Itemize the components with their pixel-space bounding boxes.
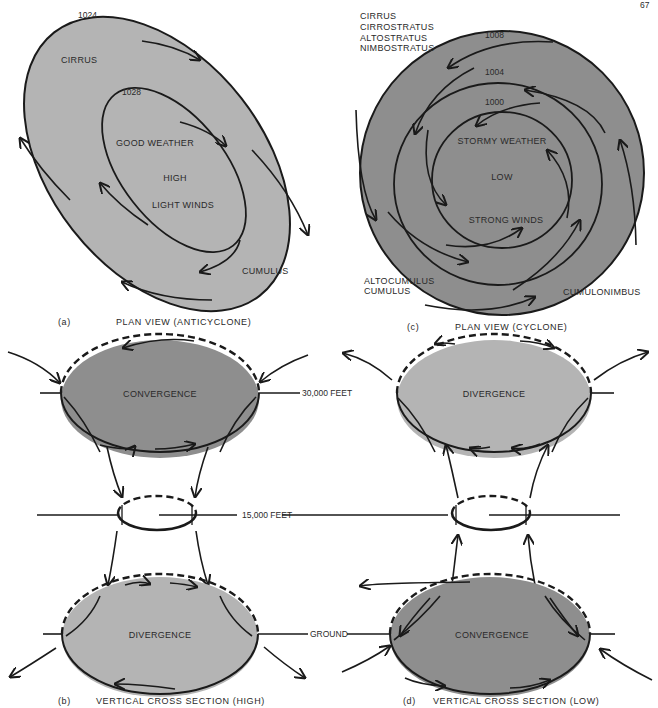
cloud-label-nimbostratus: NIMBOSTRATUS — [360, 43, 434, 53]
panel-d-letter: (d) — [403, 696, 416, 706]
panel-b-high-cross-section: CONVERGENCE DIVERGENCE (b) VERTICAL CROS… — [8, 334, 308, 706]
isobar-label-1028: 1028 — [122, 87, 141, 97]
cloud-label-altostratus: ALTOSTRATUS — [360, 33, 427, 43]
panel-b-letter: (b) — [58, 696, 71, 706]
cloud-label-cumulus: CUMULUS — [242, 266, 289, 276]
wind-arrow — [264, 647, 305, 678]
wind-arrow — [107, 447, 122, 497]
wind-arrow — [594, 352, 648, 380]
wind-arrow — [343, 353, 392, 380]
cloud-label-cumulus: CUMULUS — [364, 286, 411, 296]
cloud-label-cumulonimbus: CUMULONIMBUS — [563, 287, 641, 297]
wind-arrow — [260, 355, 308, 382]
ground-label: GROUND — [310, 629, 348, 639]
cloud-label-cirrus: CIRRUS — [61, 55, 97, 65]
panel-a-caption: PLAN VIEW (ANTICYCLONE) — [116, 317, 251, 327]
center-label-strong-winds: STRONG WINDS — [469, 215, 544, 225]
center-label-low: LOW — [491, 172, 513, 182]
center-label-good-weather: GOOD WEATHER — [116, 138, 194, 148]
cloud-label-cirrus: CIRRUS — [360, 11, 396, 21]
divergence-ellipse — [397, 340, 591, 458]
weather-systems-diagram: 67 1024 1028 CIRRUS GOOD WEATHER HIGH LI… — [0, 0, 658, 708]
isobar-label-1008: 1008 — [485, 30, 504, 40]
page-number: 67 — [640, 0, 650, 10]
wind-arrow — [600, 649, 652, 680]
wind-arrow — [195, 447, 208, 497]
convergence-ellipse — [61, 340, 259, 458]
isobar-label-1000: 1000 — [485, 97, 504, 107]
low-lower-label-convergence: CONVERGENCE — [455, 630, 529, 640]
panel-d-caption: VERTICAL CROSS SECTION (LOW) — [433, 696, 599, 706]
wind-arrow — [196, 531, 208, 585]
wind-arrow — [8, 352, 60, 383]
center-label-high: HIGH — [163, 173, 187, 183]
cloud-label-altocumulus: ALTOCUMULUS — [364, 276, 434, 286]
wind-arrow — [108, 531, 117, 585]
wind-arrow — [342, 646, 390, 672]
cloud-label-cirrostratus: CIRROSTRATUS — [360, 22, 434, 32]
high-upper-label-convergence: CONVERGENCE — [123, 389, 197, 399]
panel-c-cyclone-plan: 1008 1004 1000 CIRRUS CIRROSTRATUS ALTOS… — [356, 11, 644, 332]
center-label-light-winds: LIGHT WINDS — [152, 200, 214, 210]
isobar-label-1004: 1004 — [485, 67, 504, 77]
wind-arrow — [528, 535, 535, 585]
center-label-stormy-weather: STORMY WEATHER — [457, 136, 546, 146]
wind-arrow — [10, 648, 56, 677]
level-30000-label: 30,000 FEET — [302, 388, 352, 398]
low-upper-label-divergence: DIVERGENCE — [463, 389, 526, 399]
panel-c-letter: (c) — [407, 322, 419, 332]
panel-a-letter: (a) — [58, 317, 71, 327]
panel-b-caption: VERTICAL CROSS SECTION (HIGH) — [96, 696, 265, 706]
panel-a-anticyclone-plan: 1024 1028 CIRRUS GOOD WEATHER HIGH LIGHT… — [0, 0, 344, 361]
panel-d-low-cross-section: DIVERGENCE CONVERGENCE (d) VERTICAL CROS… — [342, 334, 652, 706]
isobar-label-1024: 1024 — [78, 10, 97, 20]
high-lower-label-divergence: DIVERGENCE — [129, 630, 192, 640]
panel-c-caption: PLAN VIEW (CYCLONE) — [455, 322, 567, 332]
